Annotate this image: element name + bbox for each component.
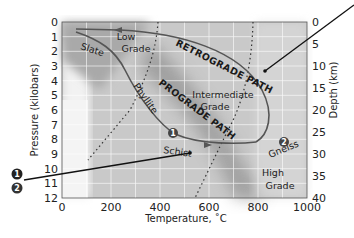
intermediate-grade-label: Intermediate xyxy=(192,89,253,100)
y-right-tick-label: 5 xyxy=(312,38,319,51)
y-right-tick-label: 40 xyxy=(312,192,326,205)
low-grade-label: Low xyxy=(117,31,136,42)
metamorphic-pt-diagram: 1 2 Low Grade Intermediate Grade High Gr… xyxy=(0,0,354,238)
y-left-tick-label: 5 xyxy=(51,89,58,102)
y-left-tick-label: 8 xyxy=(51,133,58,146)
y-left-tick-label: 6 xyxy=(51,104,58,117)
svg-text:1: 1 xyxy=(14,170,20,179)
y-axis-left-label: Pressure (kilobars) xyxy=(29,63,40,156)
y-right-tick-label: 35 xyxy=(312,170,326,183)
y-right-tick-label: 0 xyxy=(312,16,319,29)
svg-text:2: 2 xyxy=(14,184,20,193)
y-left-tick-label: 10 xyxy=(44,163,58,176)
y-right-tick-label: 30 xyxy=(312,148,326,161)
y-left-tick-label: 1 xyxy=(51,31,58,44)
y-left-tick-label: 2 xyxy=(51,45,58,58)
svg-text:1: 1 xyxy=(170,129,176,138)
x-axis-label: Temperature, ˚C xyxy=(144,213,227,224)
y-left-tick-label: 7 xyxy=(51,119,58,132)
x-tick-label: 800 xyxy=(248,201,269,214)
y-left-tick-label: 4 xyxy=(51,75,58,88)
y-left-tick-label: 12 xyxy=(44,192,58,205)
y-right-tick-label: 10 xyxy=(312,60,326,73)
y-right-tick-label: 25 xyxy=(312,126,326,139)
y-axis-right-label: Depth (km) xyxy=(328,61,339,118)
y-left-tick-label: 0 xyxy=(51,16,58,29)
y-right-tick-label: 15 xyxy=(312,82,326,95)
x-tick-label: 200 xyxy=(101,201,122,214)
y-left-tick-label: 11 xyxy=(44,177,58,190)
low-grade-label-2: Grade xyxy=(122,43,151,54)
high-grade-label-2: Grade xyxy=(266,180,295,191)
y-left-tick-label: 9 xyxy=(51,148,58,161)
marker-1: 1 xyxy=(168,128,178,138)
callout-2: 2 xyxy=(12,183,23,194)
y-right-tick-label: 20 xyxy=(312,104,326,117)
callout-1: 1 xyxy=(12,169,23,180)
high-grade-label: High xyxy=(262,167,284,178)
y-left-tick-label: 3 xyxy=(51,60,58,73)
x-tick-label: 0 xyxy=(59,201,66,214)
